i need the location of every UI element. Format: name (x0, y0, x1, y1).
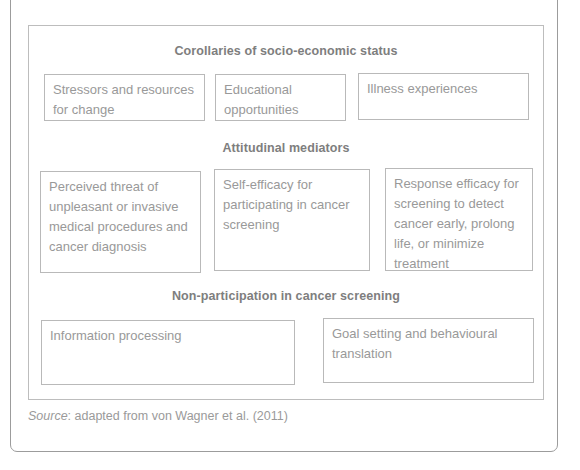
box-educational-opportunities: Educational opportunities (215, 74, 346, 121)
section-heading-socio-economic: Corollaries of socio-economic status (28, 44, 544, 58)
source-note: Source: adapted from von Wagner et al. (… (28, 409, 288, 423)
section-heading-non-participation: Non-participation in cancer screening (28, 289, 544, 303)
box-stressors-resources: Stressors and resources for change (44, 74, 205, 121)
source-citation: adapted from von Wagner et al. (2011) (75, 409, 288, 423)
box-self-efficacy: Self-efficacy for participating in cance… (214, 169, 370, 271)
box-information-processing: Information processing (41, 320, 295, 385)
section-heading-attitudinal-mediators: Attitudinal mediators (28, 141, 544, 155)
box-response-efficacy: Response efficacy for screening to detec… (385, 168, 533, 271)
box-goal-setting: Goal setting and behavioural translation (323, 318, 534, 383)
source-label: Source (28, 409, 68, 423)
box-perceived-threat: Perceived threat of unpleasant or invasi… (40, 171, 201, 273)
box-illness-experiences: Illness experiences (358, 73, 529, 120)
source-separator: : (68, 409, 75, 423)
